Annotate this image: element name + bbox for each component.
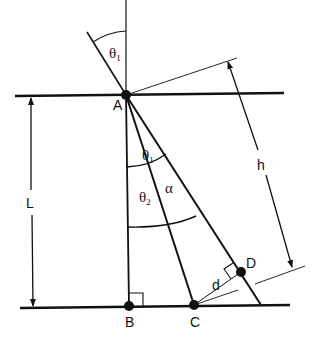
h-dimension-arrow-up [228, 62, 258, 150]
right-angle-marker-D [224, 263, 233, 279]
label-theta1-inner: θ1 [142, 147, 154, 165]
label-alpha: α [165, 180, 173, 196]
label-theta1-incident: θ1 [109, 45, 121, 63]
bottom-boundary-line [20, 305, 290, 308]
label-D: D [246, 255, 256, 271]
label-h: h [257, 157, 265, 173]
point-A [121, 90, 131, 100]
point-B [124, 301, 134, 311]
h-top-extension-line [126, 58, 237, 95]
label-theta2: θ2 [139, 189, 151, 207]
label-C: C [190, 314, 200, 330]
top-boundary-line [15, 93, 284, 96]
h-bottom-extension-line [255, 266, 305, 284]
label-B: B [125, 314, 134, 330]
incident-angle-arc [93, 31, 126, 42]
alpha-arc-outer [164, 209, 192, 223]
label-L: L [26, 195, 34, 211]
refraction-geometry-diagram: A B C D L h d θ1 θ1 θ2 α [0, 0, 323, 345]
h-dimension-arrow-down [266, 175, 292, 267]
label-A: A [113, 97, 123, 113]
L-dimension-arrow-down [32, 215, 33, 306]
line-AB [126, 95, 129, 306]
line-AC [126, 95, 194, 305]
point-D [236, 267, 246, 277]
point-C [189, 300, 199, 310]
theta2-alpha-arc [128, 216, 196, 227]
label-d: d [212, 277, 220, 293]
